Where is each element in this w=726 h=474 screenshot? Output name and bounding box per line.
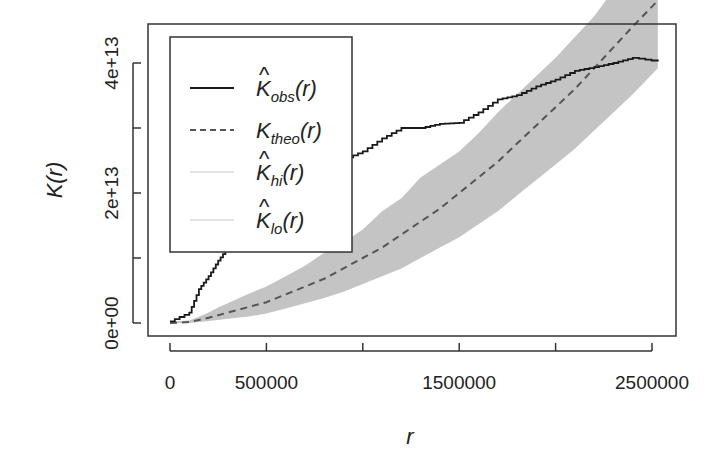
y-tick-label: 4e+13 bbox=[101, 36, 122, 89]
x-axis: 050000015000002500000 bbox=[165, 343, 689, 393]
x-axis-title: r bbox=[406, 424, 415, 449]
x-tick-label: 500000 bbox=[235, 372, 298, 393]
hat-accent: ^ bbox=[259, 194, 270, 219]
x-tick-label: 1500000 bbox=[422, 372, 496, 393]
y-tick-label: 0e+00 bbox=[101, 296, 122, 349]
y-axis: 0e+002e+134e+13 bbox=[101, 36, 141, 349]
k-function-chart: 0e+002e+134e+13 050000015000002500000 r … bbox=[0, 0, 726, 474]
x-tick-label: 0 bbox=[165, 372, 176, 393]
y-tick-label: 2e+13 bbox=[101, 166, 122, 219]
legend: Kobs(r)^Ktheo(r)Khi(r)^Klo(r)^ bbox=[170, 37, 352, 252]
y-axis-title: K(r) bbox=[42, 162, 67, 199]
hat-accent: ^ bbox=[259, 62, 270, 87]
x-tick-label: 2500000 bbox=[615, 372, 689, 393]
hat-accent: ^ bbox=[259, 146, 270, 171]
